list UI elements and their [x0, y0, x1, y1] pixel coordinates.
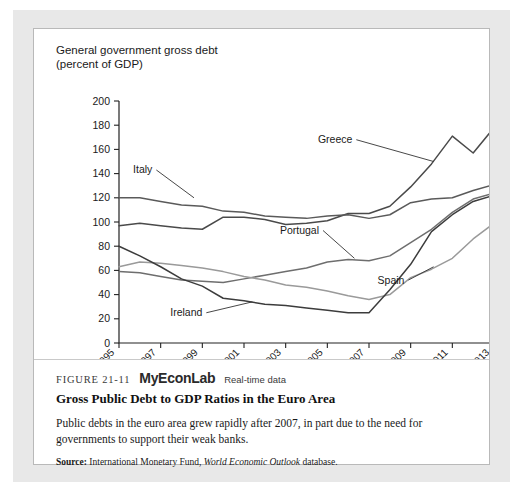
y-axis-tick-label: 40 — [98, 288, 110, 300]
chart-area: General government gross debt (percent o… — [34, 29, 489, 359]
y-axis-tick-label: 80 — [98, 240, 110, 252]
x-axis-tick-label: 2009 — [385, 346, 409, 359]
series-line-ireland — [119, 195, 489, 312]
y-axis-tick-label: 20 — [98, 312, 110, 324]
y-axis-tick-label: 60 — [98, 264, 110, 276]
figure-header-line: FIGURE 21-11 MyEconLab Real-time data — [56, 370, 467, 386]
x-axis-tick-label: 2011 — [427, 346, 450, 359]
series-label-spain: Spain — [378, 274, 405, 286]
y-axis-tick-label: 120 — [92, 191, 110, 203]
y-axis-tick-label: 180 — [92, 119, 110, 131]
figure-card: General government gross debt (percent o… — [33, 28, 490, 465]
source-publication: World Economic Outlook — [204, 457, 300, 467]
line-chart: 0204060801001201401601802001995199719992… — [34, 29, 489, 359]
series-leader-portugal — [323, 230, 354, 258]
series-label-greece: Greece — [318, 133, 353, 145]
series-line-portugal — [119, 193, 489, 283]
x-axis-tick-label: 2005 — [301, 346, 325, 359]
y-axis-tick-label: 200 — [92, 95, 110, 107]
figure-outer-panel: General government gross debt (percent o… — [13, 10, 510, 482]
series-leader-ireland — [206, 302, 252, 313]
series-line-greece — [119, 128, 489, 230]
source-label: Source: — [56, 457, 87, 467]
caption-source: Source: International Monetary Fund, Wor… — [56, 457, 467, 467]
y-axis-tick-label: 140 — [92, 167, 110, 179]
series-label-portugal: Portugal — [280, 224, 319, 236]
x-axis-tick-label: 2003 — [260, 346, 284, 359]
x-axis-tick-label: 2007 — [343, 346, 367, 359]
caption-title: Gross Public Debt to GDP Ratios in the E… — [56, 391, 467, 407]
source-text-last: database. — [302, 457, 337, 467]
series-leader-greece — [356, 140, 433, 162]
series-label-ireland: Ireland — [170, 306, 202, 318]
caption-body: Public debts in the euro area grew rapid… — [56, 416, 467, 447]
y-axis-tick-label: 160 — [92, 143, 110, 155]
source-text-first: International Monetary Fund, — [89, 457, 201, 467]
series-label-italy: Italy — [133, 163, 153, 175]
figure-number: FIGURE 21-11 — [56, 374, 130, 385]
x-axis-tick-label: 1999 — [176, 346, 200, 359]
y-axis-tick-label: 100 — [92, 216, 110, 228]
x-axis-tick-label: 1997 — [135, 346, 159, 359]
series-leader-italy — [156, 170, 194, 198]
figure-caption: FIGURE 21-11 MyEconLab Real-time data Gr… — [34, 360, 489, 467]
myeconlab-logo: MyEconLab — [139, 370, 215, 386]
series-line-italy — [119, 184, 489, 218]
x-axis-tick-label: 2001 — [218, 346, 242, 359]
x-axis-tick-label: 2013 — [468, 346, 489, 359]
real-time-data-note: Real-time data — [224, 374, 286, 385]
series-leader-spain — [408, 267, 433, 280]
